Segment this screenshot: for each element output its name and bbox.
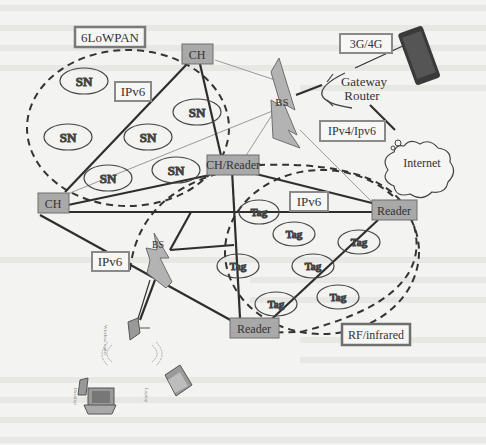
- svg-text:SN: SN: [140, 130, 157, 145]
- svg-text:Tag: Tag: [330, 291, 347, 303]
- svg-text:Tag: Tag: [305, 260, 322, 272]
- svg-text:3G/4G: 3G/4G: [350, 37, 383, 51]
- sensor-node: SN: [44, 124, 92, 150]
- sensor-node: SN: [124, 124, 172, 150]
- label-rf-infrared: RF/infrared: [342, 324, 410, 345]
- wireless-router-icon: [128, 318, 140, 340]
- sensor-node: SN: [173, 99, 221, 125]
- label-3g4g: 3G/4G: [340, 34, 392, 53]
- label-ipv6-mid: IPv6: [290, 192, 328, 211]
- svg-text:BS: BS: [152, 239, 164, 250]
- svg-text:Router: Router: [344, 88, 380, 103]
- svg-text:IPv4/Ipv6: IPv4/Ipv6: [328, 124, 376, 138]
- svg-text:Tag: Tag: [230, 260, 247, 272]
- svg-text:CH/Reader: CH/Reader: [206, 158, 260, 172]
- sensor-node: SN: [152, 157, 200, 183]
- network-diagram: SN SN SN SN SN SN Tag Tag Tag Tag Tag Ta…: [0, 0, 486, 445]
- svg-text:BS: BS: [275, 96, 288, 108]
- reader-bottom: Reader: [230, 318, 279, 338]
- svg-text:Reader: Reader: [237, 322, 271, 336]
- thick-links: [40, 63, 395, 330]
- cluster-head-top: CH: [182, 44, 213, 64]
- label-ipv6-left: IPv6: [92, 252, 129, 271]
- 6lowpan-cluster-boundary: [27, 50, 229, 206]
- tag: Tag: [273, 222, 315, 246]
- svg-text:RF/infrared: RF/infrared: [348, 328, 404, 342]
- svg-text:Tag: Tag: [351, 236, 368, 248]
- svg-text:Internet: Internet: [403, 156, 441, 170]
- svg-text:Laptop: Laptop: [144, 388, 149, 403]
- svg-text:CH: CH: [189, 48, 206, 62]
- label-6lowpan: 6LoWPAN: [75, 27, 145, 47]
- svg-text:Tag: Tag: [251, 206, 268, 218]
- label-ipv6-top: IPv6: [115, 82, 151, 101]
- sensor-node: SN: [84, 165, 132, 191]
- svg-text:IPv6: IPv6: [98, 254, 123, 269]
- svg-text:IPv6: IPv6: [297, 194, 322, 209]
- svg-text:IPv6: IPv6: [121, 84, 146, 99]
- svg-text:SN: SN: [100, 171, 117, 186]
- svg-text:Tag: Tag: [268, 298, 285, 310]
- label-ipv4-ipv6: IPv4/Ipv6: [320, 121, 385, 141]
- svg-text:SN: SN: [60, 130, 77, 145]
- svg-text:6LoWPAN: 6LoWPAN: [81, 30, 140, 45]
- tag: Tag: [338, 230, 380, 254]
- svg-text:Reader: Reader: [377, 204, 411, 218]
- mobile-phone-icon: [398, 25, 441, 86]
- internet-cloud: Internet: [385, 140, 453, 198]
- svg-text:Desktop: Desktop: [73, 388, 78, 405]
- sensor-node: SN: [60, 68, 108, 94]
- cluster-head-reader: CH/Reader: [206, 155, 260, 175]
- wireless-router-device: Wireless router: [102, 280, 162, 366]
- svg-text:SN: SN: [189, 105, 206, 120]
- svg-text:Tag: Tag: [286, 228, 303, 240]
- svg-text:SN: SN: [76, 74, 93, 89]
- tag: Tag: [255, 292, 297, 316]
- reader-right: Reader: [372, 200, 417, 220]
- cluster-head-left: CH: [38, 193, 69, 213]
- base-station-top: BS: [271, 58, 300, 148]
- svg-text:CH: CH: [45, 197, 62, 211]
- svg-text:SN: SN: [168, 163, 185, 178]
- svg-text:Gateway: Gateway: [341, 74, 388, 89]
- desktop-icon: [78, 378, 88, 395]
- desktop-computer: Desktop: [73, 378, 116, 414]
